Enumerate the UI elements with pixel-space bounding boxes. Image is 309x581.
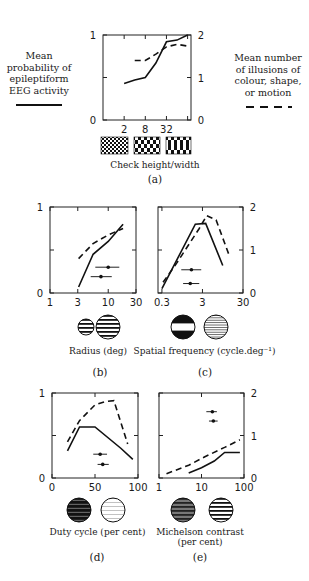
plot-frame	[103, 35, 191, 120]
y-right-tick-label: 0	[251, 473, 257, 484]
plot-frame	[159, 393, 244, 478]
plot-group: 283201012131030010.333001205010001110100…	[37, 30, 257, 493]
panel-label-a: (a)	[135, 173, 175, 185]
panel-label-d: (d)	[77, 551, 117, 563]
mean-point	[99, 275, 103, 279]
x-tick-label: 50	[89, 482, 102, 493]
high-frequency-grating-icon	[204, 315, 228, 339]
x-tick-label: 3	[199, 297, 205, 308]
illusions-dashed-line	[163, 216, 230, 283]
y-left-tick-label: 1	[39, 388, 45, 399]
x-tick-label: 32	[160, 124, 173, 135]
y-left-tick-label: 0	[39, 473, 45, 484]
y-right-tick-label: 0	[250, 288, 256, 299]
y-right-tick-label: 2	[198, 30, 204, 41]
panel-label-b: (b)	[80, 366, 120, 378]
mean-point	[188, 282, 192, 286]
y-right-tick-label: 2	[251, 388, 257, 399]
eeg-probability-line	[162, 223, 223, 288]
y-right-tick-label: 1	[251, 431, 257, 442]
caption-c: Spatial frequency (cycle.deg⁻¹)	[132, 346, 277, 356]
y-right-tick-label: 2	[250, 202, 256, 213]
low-frequency-grating-icon	[171, 315, 195, 339]
illusions-dashed-line	[67, 401, 127, 444]
mean-point	[212, 419, 216, 423]
x-tick-label: 100	[128, 482, 147, 493]
x-tick-label: 0.3	[154, 297, 170, 308]
mean-point	[211, 410, 215, 414]
y-right-tick-label: 1	[250, 245, 256, 256]
check-pattern-icons	[101, 137, 191, 154]
x-tick-label: 0	[49, 482, 55, 493]
eeg-probability-line	[124, 35, 187, 83]
caption-e-line2: (per cent)	[150, 537, 250, 547]
chart-panel-d: 05010001	[39, 388, 148, 493]
medium-checkerboard-icon	[134, 137, 160, 154]
mean-point	[98, 452, 102, 456]
y-left-tick-label: 1	[37, 202, 43, 213]
mean-point	[106, 265, 110, 269]
mean-point	[101, 463, 105, 467]
x-tick-label: 1	[47, 297, 53, 308]
caption-a: Check height/width	[60, 160, 250, 170]
x-tick-label: 8	[142, 124, 148, 135]
x-tick-label: 10	[195, 482, 208, 493]
figure-canvas: 283201012131030010.333001205010001110100…	[0, 0, 309, 581]
x-tick-label: 30	[130, 297, 143, 308]
y-right-tick-label: 0	[198, 115, 204, 126]
low-contrast-grating-icon	[171, 498, 195, 522]
x-tick-label: 30	[237, 297, 250, 308]
x-tick-label: 3	[75, 297, 81, 308]
plot-frame	[50, 207, 136, 293]
x-tick-label: 1	[156, 482, 162, 493]
small-checkerboard-icon	[101, 137, 128, 154]
high-contrast-grating-icon	[209, 498, 233, 522]
y-left-tick-label: 0	[37, 288, 43, 299]
tall-checkerboard-icon	[166, 137, 191, 154]
large-radius-grating-icon	[96, 315, 120, 339]
panel-label-c: (c)	[185, 366, 225, 378]
chart-panel-c: 0.3330012	[154, 202, 256, 308]
high-duty-cycle-grating-icon	[67, 498, 91, 522]
x-tick-label: 10	[102, 297, 115, 308]
panel-label-e: (e)	[180, 551, 220, 563]
chart-panel-a: 283201012	[90, 30, 204, 135]
chart-panel-e: 110100012	[156, 388, 257, 493]
low-duty-cycle-grating-icon	[101, 498, 125, 522]
illusions-dashed-line	[166, 440, 239, 474]
caption-e-line1: Michelson contrast	[150, 527, 250, 537]
caption-d: Duty cycle (per cent)	[45, 527, 150, 537]
eeg-probability-line	[189, 453, 240, 473]
x-tick-label: 2	[121, 124, 127, 135]
y-left-tick-label: 1	[90, 30, 96, 41]
plot-frame	[158, 207, 243, 293]
y-right-tick-label: 1	[198, 73, 204, 84]
y-left-tick-label: 0	[90, 115, 96, 126]
small-radius-grating-icon	[78, 319, 94, 335]
mean-point	[190, 268, 194, 272]
chart-panel-b: 13103001	[37, 202, 143, 308]
caption-b: Radius (deg)	[58, 346, 138, 356]
